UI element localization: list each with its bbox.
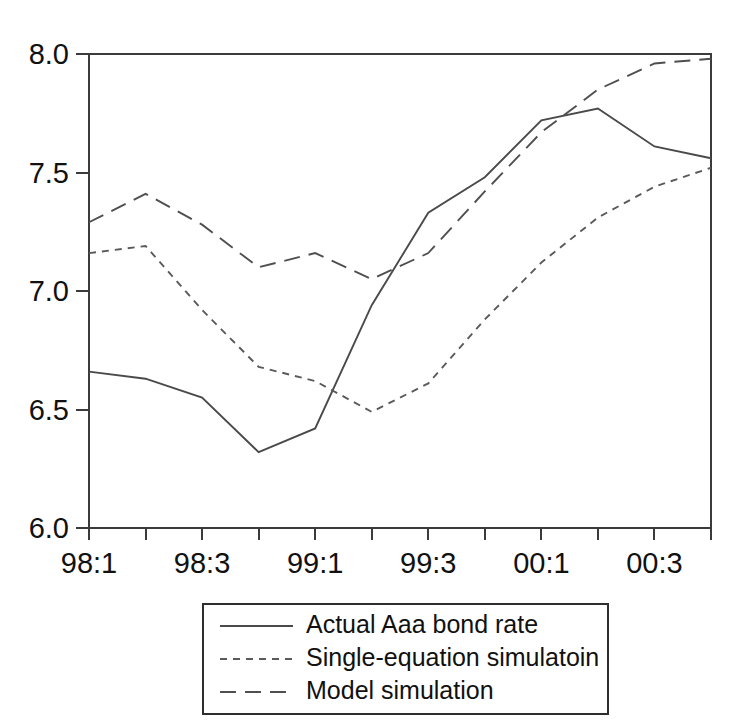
axes bbox=[89, 54, 711, 528]
y-axis-tick-labels: 6.06.57.07.58.0 bbox=[29, 38, 69, 544]
legend-label-1: Single-equation simulatoin bbox=[306, 643, 599, 671]
series-line-2 bbox=[89, 59, 711, 279]
x-axis-ticks bbox=[89, 528, 711, 540]
y-axis-ticks bbox=[76, 54, 89, 528]
legend-label-0: Actual Aaa bond rate bbox=[306, 610, 538, 638]
y-tick-label-7.5: 7.5 bbox=[29, 157, 69, 189]
series-line-0 bbox=[89, 109, 711, 453]
line-chart: 6.06.57.07.58.0 98:198:399:199:300:100:3… bbox=[0, 0, 746, 728]
axis-frame bbox=[89, 54, 711, 528]
x-tick-label-99:1: 99:1 bbox=[287, 547, 343, 579]
legend-label-2: Model simulation bbox=[306, 676, 494, 704]
x-tick-label-98:3: 98:3 bbox=[174, 547, 230, 579]
x-tick-label-00:3: 00:3 bbox=[626, 547, 682, 579]
y-tick-label-8.0: 8.0 bbox=[29, 38, 69, 70]
x-tick-label-00:1: 00:1 bbox=[513, 547, 569, 579]
chart-legend: Actual Aaa bond rateSingle-equation simu… bbox=[203, 604, 608, 714]
chart-figure: 6.06.57.07.58.0 98:198:399:199:300:100:3… bbox=[0, 0, 746, 728]
x-axis-tick-labels: 98:198:399:199:300:100:3 bbox=[61, 547, 683, 579]
x-tick-label-98:1: 98:1 bbox=[61, 547, 117, 579]
x-tick-label-99:3: 99:3 bbox=[400, 547, 456, 579]
series-line-1 bbox=[89, 168, 711, 412]
y-tick-label-6.0: 6.0 bbox=[29, 512, 69, 544]
y-tick-label-7.0: 7.0 bbox=[29, 275, 69, 307]
y-tick-label-6.5: 6.5 bbox=[29, 394, 69, 426]
series-lines bbox=[89, 59, 711, 452]
